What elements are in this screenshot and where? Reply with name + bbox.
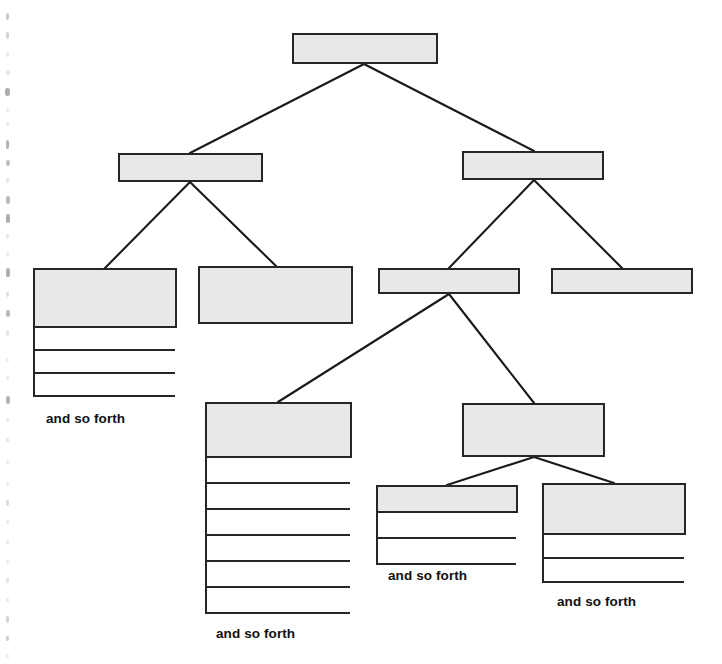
node-row[interactable] bbox=[207, 484, 350, 510]
scan-artifact-speck bbox=[6, 52, 9, 57]
scan-artifact-speck bbox=[6, 234, 9, 239]
node-header-root[interactable] bbox=[292, 33, 438, 64]
tree-node-l2-left[interactable] bbox=[118, 153, 263, 182]
tree-node-l3-c[interactable] bbox=[378, 268, 520, 294]
edge-l4-right-to-l5-b bbox=[534, 457, 614, 483]
node-header-l5-b[interactable] bbox=[542, 483, 686, 535]
node-header-l4-center[interactable] bbox=[205, 402, 352, 458]
scan-artifact-speck bbox=[6, 598, 9, 602]
scan-artifact-speck bbox=[6, 540, 9, 544]
scan-artifact-speck bbox=[6, 500, 9, 506]
node-header-l3-b[interactable] bbox=[198, 266, 353, 324]
scan-artifact-speck bbox=[6, 358, 9, 362]
node-row[interactable] bbox=[207, 562, 350, 588]
scan-artifact-speck bbox=[6, 160, 10, 166]
node-header-l5-a[interactable] bbox=[376, 485, 518, 513]
edge-root-to-l2-right bbox=[364, 64, 534, 151]
scan-artifact-speck bbox=[6, 330, 9, 336]
scan-artifact-speck bbox=[6, 520, 9, 524]
node-header-l4-right[interactable] bbox=[462, 403, 605, 457]
node-header-l3-d[interactable] bbox=[551, 268, 693, 294]
scan-artifact-speck bbox=[6, 32, 9, 39]
edge-l2-right-to-l3-d bbox=[534, 180, 622, 268]
scan-artifact-speck bbox=[6, 196, 10, 204]
node-row[interactable] bbox=[544, 535, 684, 559]
tree-node-l3-d[interactable] bbox=[551, 268, 693, 294]
node-row[interactable] bbox=[35, 328, 175, 351]
tree-node-l3-b[interactable] bbox=[198, 266, 353, 324]
scan-artifact-speck bbox=[6, 70, 10, 75]
node-header-l3-a[interactable] bbox=[33, 268, 177, 328]
scan-artifact-speck bbox=[5, 88, 10, 96]
node-row-list-l3-a bbox=[33, 328, 175, 397]
scan-artifact-speck bbox=[6, 292, 9, 297]
node-row[interactable] bbox=[207, 588, 350, 614]
node-row[interactable] bbox=[207, 536, 350, 562]
scan-artifact-speck bbox=[6, 310, 10, 317]
scan-artifact-speck bbox=[6, 418, 9, 422]
scan-artifact-speck bbox=[6, 438, 9, 442]
scan-artifact-speck bbox=[6, 252, 9, 257]
scan-artifact-speck bbox=[6, 140, 9, 149]
tree-node-l4-center[interactable] bbox=[205, 402, 352, 458]
edge-l2-left-to-l3-b bbox=[190, 182, 276, 266]
node-row[interactable] bbox=[207, 510, 350, 536]
scan-artifact-speck bbox=[6, 178, 9, 183]
scan-artifact-speck bbox=[6, 108, 9, 112]
and-so-forth-caption-l3-a: and so forth bbox=[46, 411, 125, 426]
and-so-forth-caption-l4-center: and so forth bbox=[216, 626, 295, 641]
scan-artifact-speck bbox=[6, 654, 9, 658]
edge-l2-left-to-l3-a bbox=[105, 182, 190, 268]
scan-artifact-speck bbox=[6, 13, 9, 20]
edge-l2-right-to-l3-c bbox=[449, 180, 534, 268]
node-row[interactable] bbox=[378, 539, 516, 565]
scan-artifact-speck bbox=[6, 636, 9, 641]
diagram-canvas: and so forthand so forthand so forthand … bbox=[0, 0, 722, 664]
node-header-l2-right[interactable] bbox=[462, 151, 604, 180]
tree-node-l5-a[interactable] bbox=[376, 485, 518, 513]
node-row[interactable] bbox=[544, 559, 684, 583]
tree-node-l2-right[interactable] bbox=[462, 151, 604, 180]
node-header-l2-left[interactable] bbox=[118, 153, 263, 182]
scan-artifact-speck bbox=[6, 376, 9, 380]
node-row[interactable] bbox=[35, 351, 175, 374]
and-so-forth-caption-l5-a: and so forth bbox=[388, 568, 467, 583]
scan-artifact-speck bbox=[6, 268, 10, 277]
scan-artifact-speck bbox=[6, 482, 9, 486]
node-header-l3-c[interactable] bbox=[378, 268, 520, 294]
scan-artifact-speck bbox=[6, 122, 9, 126]
scan-artifact-speck bbox=[6, 578, 9, 583]
edge-l4-right-to-l5-a bbox=[447, 457, 534, 485]
scan-artifact-speck bbox=[6, 214, 10, 223]
scan-artifact-speck bbox=[6, 460, 9, 464]
tree-node-l3-a[interactable] bbox=[33, 268, 177, 328]
node-row-list-l5-a bbox=[376, 513, 516, 565]
node-row[interactable] bbox=[378, 513, 516, 539]
node-row-list-l5-b bbox=[542, 535, 684, 583]
tree-node-l4-right[interactable] bbox=[462, 403, 605, 457]
scan-artifact-speck bbox=[6, 396, 10, 404]
node-row[interactable] bbox=[207, 458, 350, 484]
scan-artifact-speck bbox=[6, 616, 9, 623]
node-row-list-l4-center bbox=[205, 458, 350, 614]
node-row[interactable] bbox=[35, 374, 175, 397]
edge-root-to-l2-left bbox=[190, 64, 364, 153]
edge-l3-c-to-l4-right bbox=[449, 294, 534, 403]
scan-artifact-speck bbox=[6, 560, 9, 564]
tree-node-root[interactable] bbox=[292, 33, 438, 64]
tree-node-l5-b[interactable] bbox=[542, 483, 686, 535]
and-so-forth-caption-l5-b: and so forth bbox=[557, 594, 636, 609]
